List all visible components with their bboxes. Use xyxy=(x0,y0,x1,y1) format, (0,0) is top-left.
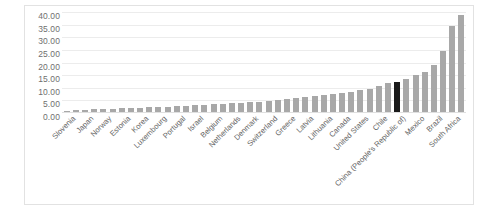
bar xyxy=(394,82,400,112)
bar xyxy=(431,65,437,112)
bar xyxy=(403,79,409,112)
bar xyxy=(458,15,464,112)
bar xyxy=(385,83,391,112)
bar xyxy=(220,104,226,112)
bar xyxy=(321,95,327,112)
bar xyxy=(312,96,318,112)
x-axis-category-labels: SloveniaJapanNorwayEstoniaKoreaLuxembour… xyxy=(62,114,492,204)
bar xyxy=(266,101,272,112)
y-axis-tick: 40.00 xyxy=(38,12,60,20)
bar xyxy=(302,97,308,112)
bar xyxy=(201,105,207,112)
bar xyxy=(440,51,446,112)
bar xyxy=(348,92,354,112)
y-axis-tick: 30.00 xyxy=(38,37,60,45)
bar xyxy=(247,102,253,112)
bar xyxy=(275,100,281,112)
bar xyxy=(422,72,428,112)
chart-screenshot: 40.0035.0030.0025.0020.0015.0010.005.000… xyxy=(0,0,498,220)
y-axis-tick: 25.00 xyxy=(38,50,60,58)
y-axis-tick-labels: 40.0035.0030.0025.0020.0015.0010.005.000… xyxy=(14,5,60,125)
bar-series xyxy=(62,12,466,113)
y-axis-tick: 35.00 xyxy=(38,25,60,33)
y-axis-tick: 10.00 xyxy=(38,88,60,96)
bar xyxy=(256,102,262,112)
bar xyxy=(376,86,382,112)
y-axis-tick: 5.00 xyxy=(43,100,60,108)
bar xyxy=(367,89,373,112)
y-axis-tick: 15.00 xyxy=(38,75,60,83)
x-axis-label: Mexico xyxy=(402,114,425,137)
bar xyxy=(449,26,455,112)
bar xyxy=(229,103,235,112)
plot-area xyxy=(62,12,466,113)
bar xyxy=(238,103,244,112)
x-axis-baseline xyxy=(62,112,466,113)
y-axis-tick: 0.00 xyxy=(43,113,60,121)
y-axis-tick: 20.00 xyxy=(38,63,60,71)
bar xyxy=(330,94,336,112)
bar xyxy=(413,75,419,112)
bar xyxy=(284,99,290,112)
bar xyxy=(293,98,299,112)
bar xyxy=(357,90,363,112)
bar xyxy=(211,104,217,112)
bar xyxy=(339,93,345,112)
